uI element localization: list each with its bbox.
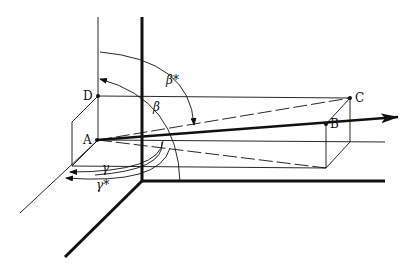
label-B: B [330, 117, 339, 131]
coordinate-axes [65, 17, 385, 257]
point-B [324, 122, 328, 126]
points [95, 94, 352, 142]
label-D: D [83, 89, 93, 103]
dashed-projections [98, 98, 350, 168]
point-C [348, 96, 352, 100]
depth-axis [65, 181, 142, 257]
angle-arcs [66, 52, 194, 182]
label-gamma: γ [102, 161, 110, 175]
reference-lines [20, 17, 385, 213]
point-A [95, 138, 99, 142]
label-C: C [355, 91, 364, 105]
depth-line-through-A [20, 140, 98, 213]
label-gamma-star: γ* [96, 178, 109, 192]
gamma-star-arc [66, 148, 170, 179]
label-beta-star: β* [165, 73, 179, 87]
dashed-A-to-bottom [98, 140, 326, 168]
beta-star-arc [100, 52, 194, 125]
label-beta: β [152, 100, 160, 114]
dashed-A-to-C [98, 98, 350, 140]
point-D [96, 94, 100, 98]
vector-angle-diagram: D A B C β β* γ γ* [0, 0, 412, 268]
label-A: A [82, 133, 92, 147]
diagram-canvas: D A B C β β* γ γ* [0, 0, 412, 268]
